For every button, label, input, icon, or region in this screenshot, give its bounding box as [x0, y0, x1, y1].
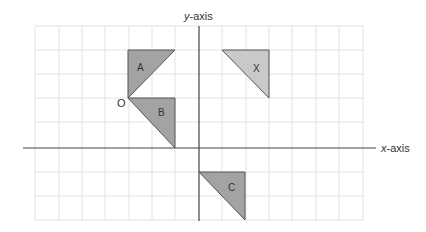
x-axis-label: x-axis [381, 142, 410, 154]
triangle-b-label: B [158, 107, 165, 118]
origin-label: O [117, 97, 126, 109]
x-axis-label-text: -axis [387, 142, 410, 154]
grid-canvas [0, 0, 426, 232]
y-axis-label-text: -axis [190, 10, 213, 22]
triangle-c-label: C [228, 182, 235, 193]
transformation-diagram: y-axis x-axis O A B C X [0, 0, 426, 232]
y-axis-label: y-axis [184, 10, 213, 22]
triangle-x-label: X [253, 63, 260, 74]
triangle-a-label: A [137, 62, 144, 73]
